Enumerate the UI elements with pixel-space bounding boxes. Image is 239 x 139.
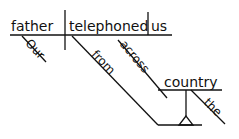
- word-verb: telephoned: [69, 19, 148, 33]
- word-object: us: [151, 19, 167, 33]
- word-subject: father: [11, 19, 53, 33]
- word-country: country: [164, 75, 218, 89]
- from-line: [72, 36, 158, 125]
- connector-triangle: [179, 116, 193, 125]
